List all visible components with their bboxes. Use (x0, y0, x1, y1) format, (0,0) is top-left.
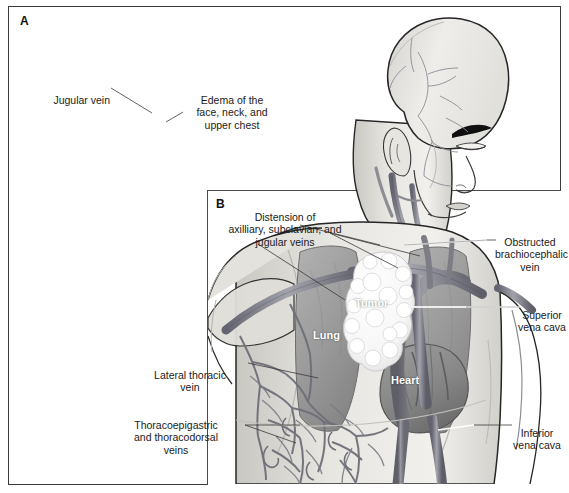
callout-obstructed-brachiocephalic-vein-text: Obstructed brachiocephalic vein (495, 236, 568, 273)
callout-distension: Distension of axilliary, subclavian, and… (215, 198, 355, 248)
callout-superior-vena-cava-text: Superior vena cava (518, 309, 566, 334)
leader-ivc-inner (438, 425, 474, 430)
callout-inferior-vena-cava-text: Inferior vena cava (513, 427, 561, 452)
organ-label-tumor: Tumor (355, 297, 388, 309)
callout-inferior-vena-cava: Inferior vena cava (509, 414, 565, 452)
callout-obstructed-brachiocephalic-vein: Obstructed brachiocephalic vein (495, 223, 565, 273)
callout-thoracoepigastric-veins-text: Thoracoepigastric and thoracodorsal vein… (134, 419, 218, 456)
callout-thoracoepigastric-veins: Thoracoepigastric and thoracodorsal vein… (110, 406, 242, 456)
callout-lateral-thoracic-vein-text: Lateral thoracic vein (154, 369, 226, 394)
organ-label-heart: Heart (391, 374, 419, 386)
leader-lateral-thoracic (248, 363, 318, 378)
callout-lateral-thoracic-vein: Lateral thoracic vein (134, 356, 246, 394)
callout-superior-vena-cava: Superior vena cava (516, 296, 568, 334)
leader-thoracoepigastric-2 (245, 425, 296, 443)
leader-distension-3 (258, 244, 345, 300)
callout-distension-text: Distension of axilliary, subclavian, and… (228, 211, 341, 248)
organ-label-lung: Lung (313, 329, 340, 341)
figure-root: A Jugular vein Edema of the face, neck, … (0, 0, 569, 493)
